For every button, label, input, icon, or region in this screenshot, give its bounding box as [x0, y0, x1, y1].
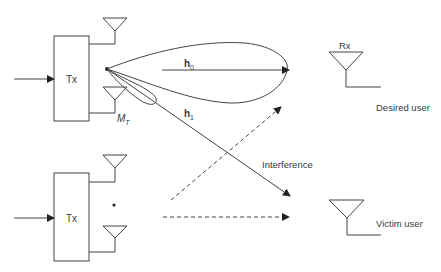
- bottom-antenna-1-icon: [89, 155, 127, 182]
- bottom-antenna-2-icon: [89, 226, 127, 252]
- victim-user-receiver: Victim user: [329, 200, 423, 235]
- desired-user-receiver: Rx Desired user: [329, 40, 430, 113]
- top-tx-label: Tx: [66, 74, 77, 85]
- rx-label: Rx: [339, 40, 351, 51]
- desired-user-label: Desired user: [376, 102, 430, 113]
- interference-dashed-arrow: [171, 107, 281, 200]
- beamforming-diagram: Tx MT h0 h1 Tx: [0, 0, 441, 272]
- h0-label: h0: [184, 58, 194, 71]
- top-antenna-mt-icon: [89, 87, 127, 113]
- bottom-transmitter: Tx: [14, 107, 289, 261]
- victim-user-label: Victim user: [376, 218, 423, 229]
- rx-antenna-icon: [329, 52, 381, 87]
- bottom-tx-label: Tx: [66, 213, 77, 224]
- interference-label: Interference: [262, 159, 313, 170]
- mt-label: MT: [117, 113, 130, 126]
- h1-label: h1: [184, 108, 194, 121]
- victim-antenna-icon: [329, 200, 381, 235]
- main-beam-lobe: [107, 43, 287, 104]
- bottom-dot: [112, 203, 115, 206]
- top-antenna-1-icon: [89, 18, 127, 44]
- top-transmitter: Tx MT h0 h1: [14, 18, 290, 196]
